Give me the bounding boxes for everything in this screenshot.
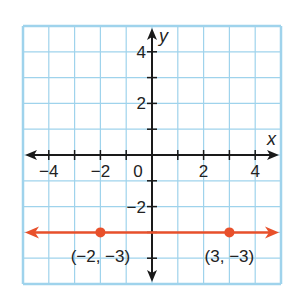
x-axis-label: x <box>266 129 277 149</box>
coordinate-plane: xy−4−202442−2 (−2, −3)(3, −3) <box>0 0 289 303</box>
y-tick-label: 2 <box>137 94 146 113</box>
y-tick-label: 4 <box>137 43 146 62</box>
data-point-label: (−2, −3) <box>71 247 131 266</box>
y-axis-label: y <box>157 26 169 46</box>
x-tick-label: −2 <box>91 162 110 181</box>
x-tick-label: 4 <box>250 162 259 181</box>
data-point <box>95 227 105 237</box>
x-tick-label: 2 <box>199 162 208 181</box>
axes <box>25 28 279 282</box>
y-tick-label: −2 <box>127 198 146 217</box>
x-tick-label: 0 <box>133 162 142 181</box>
x-tick-label: −4 <box>39 162 58 181</box>
data-point-label: (3, −3) <box>205 247 255 266</box>
data-point <box>224 227 234 237</box>
